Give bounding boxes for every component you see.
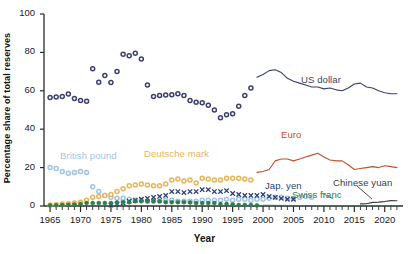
series-deutsche-mark [48, 176, 253, 207]
series-chinese-yuan [360, 201, 397, 204]
x-tick-label: 1970 [64, 214, 98, 225]
x-tick-label: 2000 [246, 214, 280, 225]
y-tick-label: 40 [11, 122, 35, 133]
series-label-us-dollar: US dollar [301, 74, 341, 85]
y-tick-label: 100 [11, 7, 35, 18]
x-tick-label: 2015 [337, 214, 371, 225]
x-axis-title: Year [0, 233, 409, 244]
series-label-chinese-yuan: Chinese yuan [333, 177, 392, 188]
y-tick-label: 80 [11, 45, 35, 56]
series-label-euro: Euro [281, 129, 301, 140]
x-tick-label: 1990 [185, 214, 219, 225]
series-us-dollar [48, 51, 397, 119]
series-euro [257, 153, 397, 172]
x-tick-label: 1985 [155, 214, 189, 225]
x-axis-ticks [50, 206, 397, 212]
x-tick-label: 1995 [216, 214, 250, 225]
chart-figure: Percentage share of total reserves Year … [0, 0, 409, 254]
x-tick-label: 2020 [368, 214, 402, 225]
series-label-deutsche-mark: Deutsche mark [144, 148, 209, 159]
y-tick-label: 0 [11, 199, 35, 210]
x-tick-label: 2005 [276, 214, 310, 225]
series-label-swiss-franc: Swiss franc [292, 189, 342, 200]
series-label-british-pound: British pound [60, 150, 117, 161]
x-tick-label: 1965 [33, 214, 67, 225]
y-tick-label: 60 [11, 84, 35, 95]
y-tick-label: 20 [11, 161, 35, 172]
x-tick-label: 2010 [307, 214, 341, 225]
x-tick-label: 1975 [94, 214, 128, 225]
x-tick-label: 1980 [124, 214, 158, 225]
